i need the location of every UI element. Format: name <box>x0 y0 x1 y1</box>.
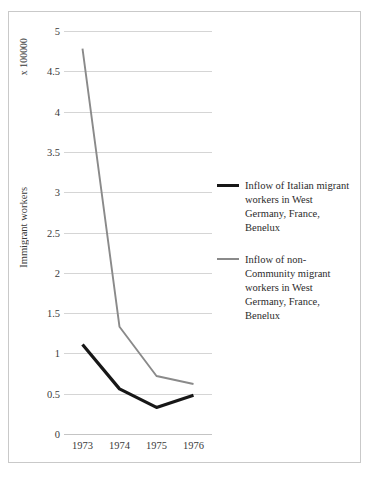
x-axis-tick-labels: 1973197419751976 <box>64 438 212 458</box>
y-tick-label: 0 <box>55 429 60 440</box>
y-tick-label: 3 <box>55 187 60 198</box>
plot-area <box>64 31 212 434</box>
y-tick-label: 4 <box>55 106 60 117</box>
legend-item-italian[interactable]: Inflow of Italian migrant workers in Wes… <box>217 179 357 235</box>
y-tick-label: 0.5 <box>47 388 60 399</box>
x-tick-label: 1973 <box>72 440 93 451</box>
series-line-italian <box>83 345 194 408</box>
chart-figure: x 100000 Immigrant workers 00.511.522.53… <box>8 11 361 463</box>
y-tick-label: 1 <box>55 348 60 359</box>
y-tick-label: 2 <box>55 267 60 278</box>
x-tick-label: 1975 <box>146 440 167 451</box>
series-line-non-community <box>83 49 194 384</box>
chart-legend: Inflow of Italian migrant workers in Wes… <box>217 179 357 341</box>
y-axis-tick-labels: 00.511.522.533.544.55 <box>27 31 60 434</box>
legend-item-label: Inflow of non-Community migrant workers … <box>245 253 353 323</box>
y-tick-label: 2.5 <box>47 227 60 238</box>
line-swatch-gray-icon <box>217 253 239 264</box>
y-tick-label: 3.5 <box>47 146 60 157</box>
gridline <box>64 434 212 435</box>
x-tick-label: 1974 <box>109 440 130 451</box>
y-tick-label: 1.5 <box>47 308 60 319</box>
x-tick-label: 1976 <box>183 440 204 451</box>
legend-item-label: Inflow of Italian migrant workers in Wes… <box>245 179 353 235</box>
legend-item-non-community[interactable]: Inflow of non-Community migrant workers … <box>217 253 357 323</box>
y-tick-label: 5 <box>55 26 60 37</box>
line-swatch-black-icon <box>217 179 239 190</box>
y-tick-label: 4.5 <box>47 66 60 77</box>
series-lines <box>64 31 212 434</box>
